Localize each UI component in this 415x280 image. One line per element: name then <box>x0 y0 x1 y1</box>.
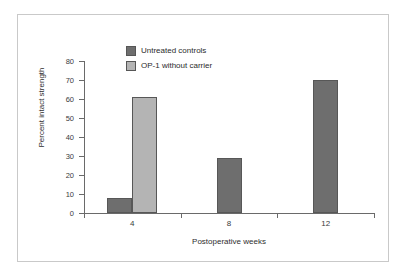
y-axis-label: Percent intact strength <box>37 53 46 163</box>
x-axis-line <box>84 213 374 214</box>
bar-untreated-controls-week-8 <box>217 158 242 213</box>
y-axis-tick-label: 0 <box>44 210 74 218</box>
x-axis-tick-label: 4 <box>112 220 152 228</box>
figure-frame: Untreated controls OP-1 without carrier … <box>17 14 389 262</box>
y-axis-tick <box>79 137 84 138</box>
legend-label-untreated-controls: Untreated controls <box>141 47 206 55</box>
y-axis-tick <box>79 118 84 119</box>
bar-untreated-controls-week-4 <box>107 198 132 213</box>
legend-label-op1-without-carrier: OP-1 without carrier <box>141 62 212 70</box>
x-axis-tick <box>84 213 85 218</box>
x-axis-tick <box>181 213 182 218</box>
y-axis-tick-label: 60 <box>44 96 74 104</box>
x-axis-tick-label: 12 <box>306 220 346 228</box>
legend-item-op1-without-carrier: OP-1 without carrier <box>126 59 212 72</box>
x-axis-label: Postoperative weeks <box>84 237 374 246</box>
y-axis-tick <box>79 99 84 100</box>
y-axis-tick-label: 10 <box>44 191 74 199</box>
y-axis-tick-label: 70 <box>44 77 74 85</box>
y-axis-tick <box>79 156 84 157</box>
x-axis-tick <box>277 213 278 218</box>
bar-untreated-controls-week-12 <box>313 80 338 213</box>
y-axis-tick <box>79 175 84 176</box>
y-axis-tick-label: 50 <box>44 115 74 123</box>
legend-item-untreated-controls: Untreated controls <box>126 44 212 57</box>
y-axis-tick-label: 40 <box>44 134 74 142</box>
bar-op-1-without-carrier-week-4 <box>132 97 157 213</box>
x-axis-tick-label: 8 <box>209 220 249 228</box>
legend-swatch-icon-op1-without-carrier <box>126 61 136 71</box>
legend-swatch-icon-untreated-controls <box>126 46 136 56</box>
bar-chart: Untreated controls OP-1 without carrier … <box>18 15 390 263</box>
x-axis-tick <box>374 213 375 218</box>
y-axis-tick-label: 80 <box>44 58 74 66</box>
y-axis-tick <box>79 194 84 195</box>
y-axis-tick-label: 30 <box>44 153 74 161</box>
y-axis-line <box>84 61 85 214</box>
y-axis-tick-label: 20 <box>44 172 74 180</box>
y-axis-tick <box>79 61 84 62</box>
chart-legend: Untreated controls OP-1 without carrier <box>126 44 212 74</box>
y-axis-tick <box>79 80 84 81</box>
